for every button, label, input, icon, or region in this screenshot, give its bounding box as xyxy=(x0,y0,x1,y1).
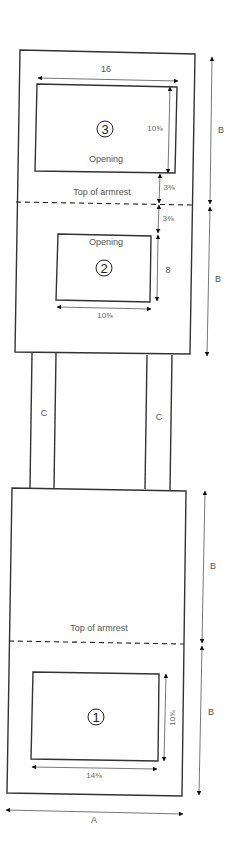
right-leg-outer-edge xyxy=(170,355,172,490)
right-leg-label: C xyxy=(156,412,163,422)
upper-B-bottom-arrow xyxy=(207,207,210,356)
opening-3-height-label: 10⅝ xyxy=(147,124,163,133)
lower-armrest-label: Top of armrest xyxy=(70,623,128,633)
opening-3-height-arrow xyxy=(168,87,170,173)
lower-B-top-label: B xyxy=(210,561,216,571)
opening-1-height-arrow xyxy=(164,674,166,761)
lower-panel: Top of armrest 1 10⅝ 14⅜ B B A xyxy=(6,488,216,825)
upper-armrest-label: Top of armrest xyxy=(73,187,131,197)
opening-3-width-label: 16 xyxy=(101,64,111,74)
lower-armrest-line xyxy=(9,641,184,644)
panel-diagram: 16 10⅝ 3 Opening Top of armrest 3⅜ 3⅜ Op… xyxy=(0,0,234,853)
opening-3-number: 3 xyxy=(101,122,108,137)
opening-2-height-arrow xyxy=(157,235,158,301)
legs: C C xyxy=(30,353,172,490)
opening-2-width-label: 10⅝ xyxy=(97,311,113,320)
left-leg-outer-edge xyxy=(30,353,32,488)
dimension-A-arrow xyxy=(6,810,183,814)
upper-B-bottom-label: B xyxy=(215,274,221,284)
opening-1-width-label: 14⅜ xyxy=(86,771,102,780)
opening-2-height-label: 8 xyxy=(165,265,170,275)
upper-B-top-label: B xyxy=(218,125,224,135)
opening-1-height-label: 10⅝ xyxy=(168,710,177,726)
opening-1-number: 1 xyxy=(92,710,99,725)
upper-panel: 16 10⅝ 3 Opening Top of armrest 3⅜ 3⅜ Op… xyxy=(15,50,224,356)
left-leg-label: C xyxy=(41,408,48,418)
opening-3-width-arrow xyxy=(38,78,178,81)
upper-B-top-arrow xyxy=(210,57,212,204)
upper-armrest-line xyxy=(16,202,192,205)
opening-3-label: Opening xyxy=(89,154,123,164)
lower-B-top-arrow xyxy=(202,491,205,643)
gap-below-armrest-label: 3⅜ xyxy=(162,214,173,223)
gap-below-armrest-arrow xyxy=(158,205,159,233)
opening-2-width-arrow xyxy=(57,307,151,309)
gap-above-armrest-arrow xyxy=(159,174,160,203)
gap-above-armrest-label: 3⅜ xyxy=(163,183,174,192)
opening-1-width-arrow xyxy=(32,767,157,769)
dimension-A-label: A xyxy=(91,815,97,825)
left-leg-inner-edge xyxy=(54,353,56,488)
opening-2-number: 2 xyxy=(100,261,107,276)
right-leg-inner-edge xyxy=(145,355,147,489)
lower-B-bottom-label: B xyxy=(208,707,214,717)
opening-2-label: Opening xyxy=(89,237,123,247)
lower-B-bottom-arrow xyxy=(199,646,202,795)
lower-panel-outline xyxy=(7,488,186,796)
